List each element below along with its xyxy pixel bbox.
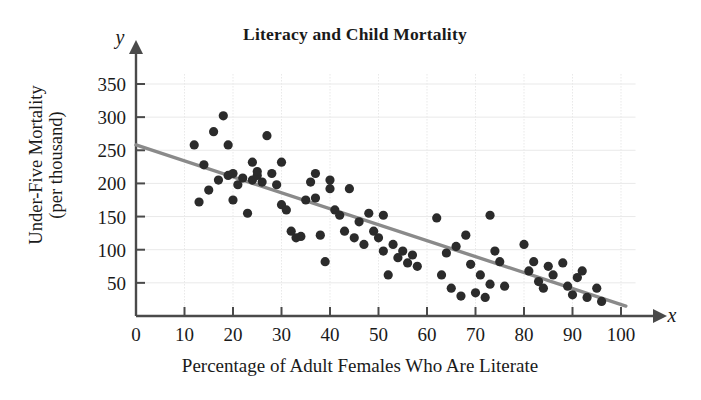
y-tick-label: 100	[98, 240, 127, 261]
data-point	[461, 231, 470, 240]
data-point	[379, 246, 388, 255]
data-point	[325, 184, 334, 193]
data-point	[563, 282, 572, 291]
data-point	[238, 174, 247, 183]
data-point	[592, 284, 601, 293]
data-point	[471, 288, 480, 297]
data-point	[248, 158, 257, 167]
data-point	[578, 266, 587, 275]
data-point	[476, 270, 485, 279]
x-tick-label: 20	[224, 324, 243, 345]
data-point	[442, 248, 451, 257]
data-point	[413, 262, 422, 271]
y-tick-label: 250	[98, 140, 127, 161]
data-point	[519, 240, 528, 249]
data-point	[437, 270, 446, 279]
y-tick-label: 350	[98, 74, 127, 95]
scatter-plot: 5010015020025030035001020304050607080901…	[0, 0, 701, 400]
data-point	[452, 242, 461, 251]
x-tick-label: 50	[369, 324, 388, 345]
data-point	[190, 140, 199, 149]
data-point	[481, 293, 490, 302]
data-point	[311, 169, 320, 178]
data-point	[301, 195, 310, 204]
data-point	[243, 209, 252, 218]
x-tick-label: 100	[607, 324, 636, 345]
data-point	[204, 185, 213, 194]
data-point	[228, 169, 237, 178]
x-tick-label: 30	[272, 324, 291, 345]
data-point	[258, 177, 267, 186]
grid-lines	[136, 74, 636, 316]
data-point	[209, 127, 218, 136]
x-tick-label: 60	[418, 324, 437, 345]
data-point	[597, 297, 606, 306]
x-tick-label: 10	[175, 324, 194, 345]
data-point	[199, 160, 208, 169]
data-point	[335, 211, 344, 220]
data-point	[524, 266, 533, 275]
data-point	[228, 195, 237, 204]
data-point	[345, 184, 354, 193]
data-point	[408, 250, 417, 259]
y-tick-label: 200	[98, 173, 127, 194]
data-point	[214, 176, 223, 185]
data-point	[296, 232, 305, 241]
data-point	[282, 205, 291, 214]
data-point	[466, 260, 475, 269]
data-point	[316, 231, 325, 240]
y-axis-variable-label: y	[114, 26, 125, 49]
y-tick-label: 150	[98, 207, 127, 228]
data-point	[549, 270, 558, 279]
data-point	[267, 169, 276, 178]
data-point	[253, 167, 262, 176]
data-point	[398, 246, 407, 255]
data-point	[485, 211, 494, 220]
data-point	[194, 197, 203, 206]
data-point	[456, 292, 465, 301]
y-tick-label: 50	[107, 273, 126, 294]
data-point	[374, 233, 383, 242]
data-points	[190, 111, 607, 306]
data-point	[403, 258, 412, 267]
regression-line	[136, 145, 626, 306]
data-point	[568, 290, 577, 299]
data-point	[277, 158, 286, 167]
data-point	[272, 180, 281, 189]
data-point	[355, 217, 364, 226]
y-tick-label: 300	[98, 107, 127, 128]
data-point	[311, 193, 320, 202]
data-point	[539, 284, 548, 293]
data-point	[321, 257, 330, 266]
data-point	[364, 209, 373, 218]
data-point	[325, 176, 334, 185]
x-tick-label: 90	[563, 324, 582, 345]
data-point	[262, 131, 271, 140]
x-tick-label: 80	[515, 324, 534, 345]
data-point	[447, 284, 456, 293]
x-tick-label: 70	[466, 324, 485, 345]
data-point	[224, 140, 233, 149]
x-tick-label: 0	[131, 324, 141, 345]
data-point	[350, 233, 359, 242]
data-point	[558, 258, 567, 267]
data-point	[544, 262, 553, 271]
x-tick-label: 40	[321, 324, 340, 345]
regression-line-segment	[136, 145, 626, 306]
data-point	[432, 213, 441, 222]
data-point	[388, 240, 397, 249]
chart-figure: Literacy and Child Mortality Under-Five …	[0, 0, 701, 400]
data-point	[219, 111, 228, 120]
data-point	[582, 293, 591, 302]
data-point	[495, 257, 504, 266]
data-point	[529, 257, 538, 266]
data-point	[384, 270, 393, 279]
data-point	[500, 282, 509, 291]
data-point	[485, 280, 494, 289]
data-point	[379, 211, 388, 220]
data-point	[490, 246, 499, 255]
data-point	[306, 177, 315, 186]
data-point	[359, 240, 368, 249]
x-axis-variable-label: x	[667, 304, 677, 326]
data-point	[340, 227, 349, 236]
